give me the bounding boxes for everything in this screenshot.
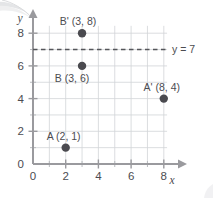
x-tick-label: 8	[161, 170, 167, 182]
y-tick-label: 0	[18, 158, 24, 170]
x-tick-label: 4	[95, 170, 102, 182]
y-tick-label: 8	[18, 27, 24, 39]
y-axis-label: y	[16, 12, 23, 25]
data-point-labels: A (2, 1)A' (8, 4)B (3, 6)B' (3, 8)	[47, 15, 180, 141]
data-point-A	[61, 143, 69, 151]
x-tick-label: 2	[62, 170, 68, 182]
x-axis-label: x	[168, 174, 175, 186]
minor-ticks	[30, 50, 147, 167]
x-axis-arrowhead	[178, 160, 187, 169]
y-tick-label: 4	[18, 93, 25, 105]
x-tick-label: 6	[128, 170, 134, 182]
y-tick-labels: 02468	[18, 27, 25, 170]
data-point-label-Ap: A' (8, 4)	[144, 81, 180, 93]
data-point-label-A: A (2, 1)	[47, 130, 81, 142]
data-point-label-B: B (3, 6)	[55, 72, 89, 84]
x-tick-labels: 02468	[30, 170, 167, 182]
x-tick-label: 0	[30, 170, 36, 182]
major-ticks	[29, 33, 164, 168]
y-axis-arrowhead	[29, 9, 38, 18]
y-tick-label: 6	[18, 60, 24, 72]
data-point-Ap	[160, 94, 168, 102]
y-tick-label: 2	[18, 125, 24, 137]
reference-line-label: y = 7	[172, 43, 195, 55]
data-point-Bp	[78, 29, 86, 37]
diagram-canvas: 02468 02468 x y y = 7 A (2, 1)A' (8, 4)B…	[0, 0, 213, 198]
coordinate-plane: 02468 02468 x y y = 7 A (2, 1)A' (8, 4)B…	[0, 0, 213, 198]
data-point-label-Bp: B' (3, 8)	[60, 15, 96, 27]
data-point-B	[78, 62, 86, 70]
grid	[33, 26, 167, 164]
